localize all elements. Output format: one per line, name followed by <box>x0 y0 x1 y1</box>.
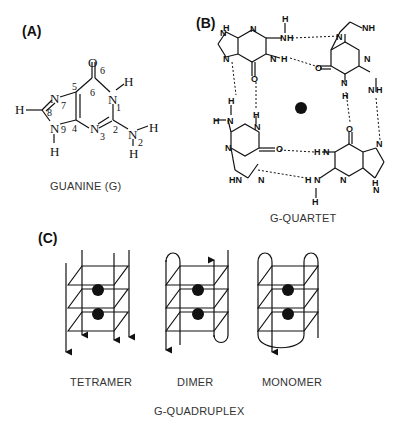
svg-text:N: N <box>223 54 230 64</box>
svg-text:N: N <box>373 185 380 195</box>
svg-text:N: N <box>227 116 234 126</box>
dimer-cation-2 <box>192 308 204 320</box>
svg-text:N: N <box>376 139 383 149</box>
svg-text:H: H <box>305 175 312 185</box>
svg-text:H: H <box>253 110 260 120</box>
svg-text:H: H <box>213 116 220 126</box>
svg-text:1: 1 <box>116 102 121 113</box>
dimer-structure <box>166 250 228 350</box>
svg-text:N: N <box>50 121 60 136</box>
svg-text:N: N <box>368 85 375 95</box>
svg-text:2: 2 <box>138 137 143 148</box>
svg-text:6: 6 <box>100 65 105 76</box>
svg-text:HN: HN <box>229 175 242 185</box>
svg-text:8: 8 <box>47 107 52 118</box>
central-cation <box>295 102 307 114</box>
svg-text:N: N <box>254 122 261 132</box>
svg-text:5: 5 <box>72 81 77 92</box>
svg-text:H: H <box>50 144 59 159</box>
svg-text:H: H <box>281 54 288 64</box>
svg-text:6: 6 <box>90 87 95 98</box>
svg-text:O: O <box>276 144 283 154</box>
svg-text:N: N <box>128 127 138 142</box>
svg-text:H: H <box>287 33 294 43</box>
svg-text:9: 9 <box>61 124 66 135</box>
svg-text:H: H <box>228 96 235 106</box>
svg-text:3: 3 <box>100 131 105 142</box>
svg-text:N: N <box>220 28 227 38</box>
svg-text:H: H <box>314 147 321 157</box>
svg-text:N: N <box>90 121 100 136</box>
svg-text:7: 7 <box>61 100 66 111</box>
svg-text:H: H <box>342 91 349 101</box>
svg-text:O: O <box>251 74 258 84</box>
svg-text:H: H <box>312 197 319 207</box>
svg-text:O: O <box>346 124 353 134</box>
svg-text:H: H <box>149 120 158 135</box>
tetramer-structure <box>66 250 129 352</box>
svg-text:N: N <box>323 147 330 157</box>
svg-text:N: N <box>280 33 287 43</box>
figure-canvas: O 6 6 5 N 1 H 2 N 3 4 N 7 8 H N 9 H N 2 … <box>0 0 397 427</box>
monomer-cation-2 <box>282 308 294 320</box>
tetramer-cation-1 <box>92 284 104 296</box>
dimer-cation-1 <box>192 284 204 296</box>
svg-text:H: H <box>129 146 138 161</box>
svg-text:N: N <box>50 91 60 106</box>
svg-text:O: O <box>88 55 97 70</box>
svg-text:N: N <box>340 175 347 185</box>
svg-text:H: H <box>124 74 133 89</box>
svg-text:O: O <box>315 63 322 73</box>
monomer-cation-1 <box>282 284 294 296</box>
svg-text:N: N <box>250 24 257 34</box>
guanine-atom-labels: O 6 6 5 N 1 H 2 N 3 4 N 7 8 H N 9 H N 2 … <box>15 55 158 161</box>
svg-text:H: H <box>376 85 383 95</box>
svg-text:N: N <box>336 32 343 42</box>
svg-text:N: N <box>270 54 277 64</box>
svg-text:N: N <box>258 175 265 185</box>
tetramer-cation-2 <box>92 308 104 320</box>
svg-text:NH: NH <box>362 23 375 33</box>
svg-text:N: N <box>225 143 232 153</box>
svg-text:N: N <box>364 54 371 64</box>
svg-text:N: N <box>341 78 348 88</box>
svg-text:N: N <box>314 175 321 185</box>
svg-text:H: H <box>15 102 24 117</box>
svg-text:4: 4 <box>72 123 77 134</box>
monomer-structure <box>258 253 318 352</box>
svg-text:2: 2 <box>113 124 118 135</box>
svg-text:H: H <box>282 14 289 24</box>
